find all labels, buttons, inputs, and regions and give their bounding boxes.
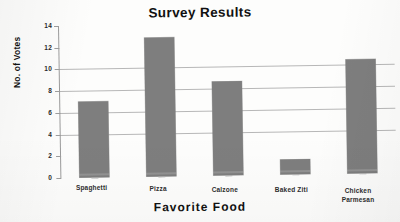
bar-pizza — [144, 37, 176, 176]
bar-chicken-parmesan — [346, 59, 378, 173]
y-axis-tick — [54, 26, 59, 27]
category-label-line: Parmesan — [328, 196, 388, 205]
y-axis-tick — [55, 113, 60, 114]
y-axis-tick — [56, 178, 61, 179]
y-axis-tick — [55, 69, 60, 70]
y-axis-tick — [56, 135, 61, 136]
category-label-line: Spaghetti — [62, 184, 122, 193]
category-label-line: Calzone — [195, 186, 255, 195]
y-axis-tick — [55, 91, 60, 92]
y-axis-tick-label: 2 — [30, 152, 52, 159]
chart-title: Survey Results — [0, 3, 400, 21]
category-label-line: Baked Ziti — [261, 186, 321, 195]
y-axis-tick-label: 14 — [30, 22, 52, 29]
gridline — [59, 64, 395, 70]
y-axis-tick-label: 6 — [30, 109, 52, 116]
x-axis-category-label: Calzone — [195, 186, 255, 195]
x-axis-tick — [225, 175, 232, 176]
x-axis-tick — [360, 173, 367, 174]
x-axis-tick — [91, 177, 98, 178]
x-axis-category-label: ChickenParmesan — [328, 187, 388, 204]
x-axis-category-label: Pizza — [128, 185, 188, 194]
category-label-line: Chicken — [328, 187, 388, 196]
y-axis-title: No. of Votes — [12, 66, 22, 88]
y-axis-tick — [56, 156, 61, 157]
bar-spaghetti — [78, 101, 109, 177]
y-axis-tick-label: 0 — [30, 174, 52, 181]
y-axis-line — [58, 26, 62, 178]
bar-baked-ziti — [280, 159, 310, 175]
bar-chart-figure: Survey Results No. of Votes Favorite Foo… — [0, 0, 400, 222]
bar-calzone — [212, 81, 243, 176]
x-axis-category-label: Baked Ziti — [261, 186, 321, 195]
y-axis-tick-label: 4 — [30, 131, 52, 138]
y-axis-tick-label: 12 — [30, 44, 52, 51]
category-label-line: Pizza — [128, 185, 188, 194]
y-axis-tick-label: 10 — [30, 65, 52, 72]
x-axis-category-label: Spaghetti — [62, 184, 122, 193]
y-axis-tick-label: 8 — [30, 87, 52, 94]
x-axis-tick — [293, 174, 300, 175]
x-axis-tick — [158, 176, 165, 177]
plot-area — [58, 21, 396, 178]
y-axis-tick — [54, 48, 59, 49]
